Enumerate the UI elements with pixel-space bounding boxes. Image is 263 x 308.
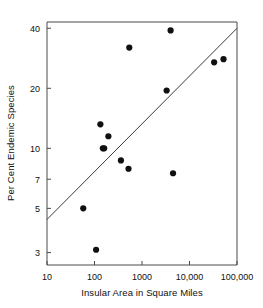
data-point	[105, 133, 111, 139]
data-point	[126, 44, 132, 50]
y-tick-label: 40	[30, 24, 40, 34]
data-point	[167, 27, 173, 33]
chart-canvas: 357102040 10100100010,000100,000 Insular…	[0, 0, 263, 308]
y-tick-label: 20	[30, 84, 40, 94]
data-point	[101, 145, 107, 151]
data-point	[80, 205, 86, 211]
data-point	[125, 166, 131, 172]
x-tick-label: 1000	[132, 272, 152, 282]
data-point	[93, 247, 99, 253]
x-tick-label: 100,000	[221, 272, 254, 282]
x-axis-tick-labels: 10100100010,000100,000	[42, 272, 253, 282]
data-point	[220, 56, 226, 62]
x-axis-ticks	[47, 261, 237, 265]
y-tick-label: 5	[35, 204, 40, 214]
trend-line	[47, 28, 237, 219]
y-axis-title: Per Cent Endemic Species	[5, 85, 16, 201]
scatter-chart-figure: 357102040 10100100010,000100,000 Insular…	[0, 0, 263, 308]
y-axis-tick-labels: 357102040	[30, 24, 40, 258]
x-tick-label: 10	[42, 272, 52, 282]
y-tick-label: 10	[30, 144, 40, 154]
regression-line	[47, 28, 237, 219]
x-axis-title: Insular Area in Square Miles	[81, 287, 203, 298]
x-tick-label: 100	[87, 272, 102, 282]
data-point	[211, 59, 217, 65]
data-point	[164, 87, 170, 93]
y-tick-label: 3	[35, 248, 40, 258]
y-tick-label: 7	[35, 175, 40, 185]
plot-frame	[47, 22, 237, 265]
data-point	[118, 157, 124, 163]
data-point	[170, 170, 176, 176]
x-tick-label: 10,000	[176, 272, 204, 282]
data-point	[97, 121, 103, 127]
